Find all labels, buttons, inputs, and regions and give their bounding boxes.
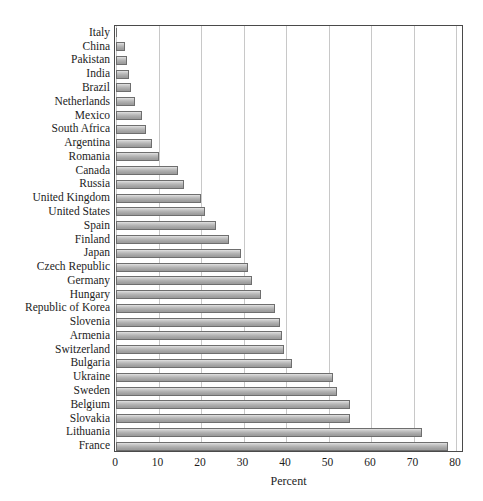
bar <box>116 28 117 37</box>
bar <box>116 139 152 148</box>
y-axis-label: Brazil <box>0 81 110 93</box>
bar-chart: ItalyChinaPakistanIndiaBrazilNetherlands… <box>0 0 483 501</box>
bar <box>116 111 142 120</box>
bar <box>116 42 125 51</box>
bar <box>116 249 241 258</box>
y-axis-label: Lithuania <box>0 425 110 437</box>
y-axis-label: Romania <box>0 150 110 162</box>
y-axis-label: Ukraine <box>0 370 110 382</box>
y-axis-label: Argentina <box>0 136 110 148</box>
x-axis-title: Percent <box>114 474 463 489</box>
bar <box>116 331 282 340</box>
bar <box>116 180 184 189</box>
bar <box>116 359 292 368</box>
bar <box>116 290 261 299</box>
bar <box>116 83 131 92</box>
x-axis-tick-label: 10 <box>152 455 164 469</box>
x-axis-tick-labels: 01020304050607080 <box>0 455 483 471</box>
bar <box>116 400 350 409</box>
y-axis-label: Slovenia <box>0 315 110 327</box>
bar <box>116 345 284 354</box>
x-axis-tick-label: 70 <box>407 455 419 469</box>
bar <box>116 414 350 423</box>
bar <box>116 276 252 285</box>
bars-layer <box>115 26 462 451</box>
y-axis-label: Russia <box>0 177 110 189</box>
bar <box>116 428 422 437</box>
bar <box>116 263 248 272</box>
bar <box>116 207 205 216</box>
y-axis-label: Czech Republic <box>0 260 110 272</box>
y-axis-category-labels: ItalyChinaPakistanIndiaBrazilNetherlands… <box>0 25 110 452</box>
bar <box>116 318 280 327</box>
y-axis-label: India <box>0 67 110 79</box>
plot-area <box>114 25 463 452</box>
y-axis-label: Pakistan <box>0 53 110 65</box>
x-axis-tick-label: 30 <box>237 455 249 469</box>
y-axis-label: United Kingdom <box>0 191 110 203</box>
y-axis-label: Canada <box>0 164 110 176</box>
bar <box>116 125 146 134</box>
x-axis-tick-label: 80 <box>449 455 461 469</box>
y-axis-label: Finland <box>0 233 110 245</box>
y-axis-label: United States <box>0 205 110 217</box>
bar <box>116 152 159 161</box>
y-axis-label: Republic of Korea <box>0 301 110 313</box>
bar <box>116 97 135 106</box>
bar <box>116 373 333 382</box>
y-axis-label: Hungary <box>0 288 110 300</box>
y-axis-label: Japan <box>0 246 110 258</box>
bar <box>116 70 129 79</box>
bar <box>116 56 127 65</box>
bar <box>116 442 448 451</box>
bar <box>116 221 216 230</box>
y-axis-label: South Africa <box>0 122 110 134</box>
x-axis-tick-label: 40 <box>279 455 291 469</box>
y-axis-label: Armenia <box>0 329 110 341</box>
x-axis-tick-label: 50 <box>322 455 334 469</box>
y-axis-label: Italy <box>0 26 110 38</box>
y-axis-label: Switzerland <box>0 343 110 355</box>
x-axis-tick-label: 60 <box>364 455 376 469</box>
x-axis-tick-label: 20 <box>194 455 206 469</box>
bar <box>116 194 201 203</box>
y-axis-label: France <box>0 439 110 451</box>
y-axis-label: Belgium <box>0 398 110 410</box>
bar <box>116 304 275 313</box>
y-axis-label: Mexico <box>0 109 110 121</box>
bar <box>116 235 229 244</box>
y-axis-label: Sweden <box>0 384 110 396</box>
x-axis-tick-label: 0 <box>112 455 118 469</box>
y-axis-label: Germany <box>0 274 110 286</box>
y-axis-label: Spain <box>0 219 110 231</box>
bar <box>116 387 337 396</box>
chart-title <box>0 2 483 14</box>
y-axis-label: Slovakia <box>0 412 110 424</box>
y-axis-label: Netherlands <box>0 95 110 107</box>
y-axis-label: Bulgaria <box>0 356 110 368</box>
bar <box>116 166 178 175</box>
y-axis-label: China <box>0 40 110 52</box>
